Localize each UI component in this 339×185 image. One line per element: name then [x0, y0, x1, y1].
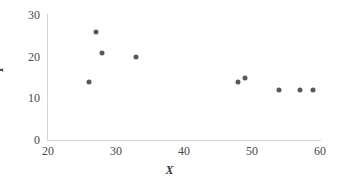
x-axis-tick-label: 20 [42, 145, 54, 157]
data-point [243, 75, 248, 80]
data-point [311, 88, 316, 93]
data-point [277, 88, 282, 93]
data-point [134, 54, 139, 59]
plot-area [48, 15, 320, 140]
data-point [93, 29, 98, 34]
x-axis-tick-label: 60 [314, 145, 326, 157]
y-axis-tick-label: 10 [14, 92, 40, 104]
x-axis-tick-label: 30 [110, 145, 122, 157]
x-axis-title: X [0, 163, 339, 178]
x-axis-tick-label: 50 [246, 145, 258, 157]
x-axis-tick-label: 40 [178, 145, 190, 157]
data-point [86, 79, 91, 84]
y-axis-title: Y [0, 66, 7, 73]
scatter-chart: 0102030 Y X 2030405060 [0, 0, 339, 185]
y-axis-tick-label: 20 [14, 51, 40, 63]
y-axis-tick-labels: 0102030 [14, 0, 40, 185]
data-point [100, 50, 105, 55]
y-axis-tick-label: 30 [14, 9, 40, 21]
y-axis-tick-label: 0 [14, 134, 40, 146]
x-axis-line [47, 140, 321, 141]
data-point [236, 79, 241, 84]
data-point [297, 88, 302, 93]
